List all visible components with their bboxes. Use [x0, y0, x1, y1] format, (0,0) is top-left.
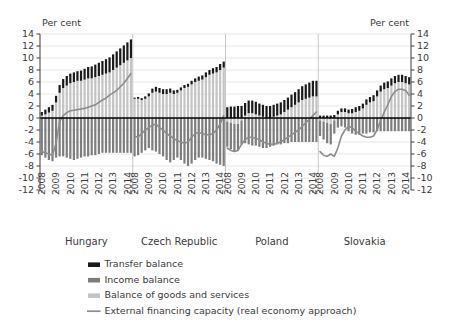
- bar-transfer-balance: [290, 95, 292, 108]
- bar-transfer-balance: [244, 103, 246, 116]
- bar-income-balance: [83, 118, 85, 156]
- bar-income-balance: [240, 120, 242, 144]
- bar-goods-services: [294, 105, 296, 118]
- bar-income-balance: [273, 118, 275, 146]
- bar-transfer-balance: [144, 96, 146, 98]
- bar-transfer-balance: [248, 101, 250, 114]
- bar-transfer-balance: [41, 112, 43, 116]
- x-tick-label-year: 2008: [130, 172, 140, 195]
- y-tick-label-right: -12: [417, 184, 433, 195]
- bar-transfer-balance: [230, 107, 232, 118]
- bar-transfer-balance: [158, 88, 160, 93]
- bar-transfer-balance: [355, 107, 357, 112]
- x-tick-label-year: 2014: [401, 172, 411, 195]
- bar-income-balance: [133, 118, 135, 156]
- bar-income-balance: [101, 118, 103, 153]
- bar-goods-services: [183, 88, 185, 118]
- bar-goods-services: [233, 118, 235, 124]
- bar-income-balance: [333, 120, 335, 133]
- bar-goods-services: [362, 108, 364, 118]
- bar-income-balance: [294, 118, 296, 142]
- bar-goods-services: [205, 77, 207, 118]
- bar-income-balance: [73, 118, 75, 160]
- bar-income-balance: [340, 118, 342, 126]
- bar-income-balance: [105, 118, 107, 153]
- y-tick-label-left: -2: [25, 124, 34, 135]
- bar-income-balance: [191, 118, 193, 164]
- bar-transfer-balance: [101, 61, 103, 75]
- bar-transfer-balance: [405, 76, 407, 83]
- bar-transfer-balance: [166, 89, 168, 94]
- y-tick-label-right: -2: [417, 124, 426, 135]
- bar-income-balance: [108, 118, 110, 153]
- bar-income-balance: [69, 118, 71, 159]
- bar-income-balance: [166, 118, 168, 160]
- bar-transfer-balance: [151, 89, 153, 93]
- bar-goods-services: [126, 60, 128, 118]
- bar-transfer-balance: [148, 93, 150, 96]
- bar-transfer-balance: [219, 64, 221, 70]
- bar-income-balance: [315, 118, 317, 142]
- chart-background: [0, 0, 452, 329]
- bar-goods-services: [394, 83, 396, 118]
- bar-transfer-balance: [369, 97, 371, 102]
- bar-transfer-balance: [340, 108, 342, 112]
- bar-transfer-balance: [362, 104, 364, 109]
- bar-transfer-balance: [376, 90, 378, 96]
- bar-goods-services: [376, 96, 378, 118]
- bar-goods-services: [305, 99, 307, 118]
- bar-income-balance: [330, 124, 332, 144]
- bar-income-balance: [397, 118, 399, 131]
- bar-income-balance: [76, 118, 78, 159]
- bar-goods-services: [137, 99, 139, 118]
- bar-income-balance: [280, 118, 282, 144]
- bar-transfer-balance: [59, 85, 61, 93]
- bar-transfer-balance: [44, 110, 46, 115]
- bar-transfer-balance: [301, 86, 303, 100]
- bar-transfer-balance: [137, 97, 139, 99]
- bar-income-balance: [258, 118, 260, 147]
- bar-income-balance: [112, 118, 114, 153]
- bar-transfer-balance: [51, 105, 53, 111]
- current-account-balance-chart: 1414121210108866442200-2-2-4-4-6-6-8-8-1…: [0, 0, 452, 329]
- bar-goods-services: [201, 80, 203, 118]
- x-tick-label-year: 2009: [51, 172, 61, 195]
- bar-transfer-balance: [87, 67, 89, 78]
- bar-income-balance: [337, 118, 339, 128]
- bar-transfer-balance: [237, 106, 239, 118]
- panel-title: Hungary: [65, 236, 108, 247]
- bar-income-balance: [351, 118, 353, 134]
- bar-income-balance: [194, 118, 196, 160]
- bar-income-balance: [262, 118, 264, 148]
- bar-transfer-balance: [251, 101, 253, 114]
- x-tick-label-year: 2010: [66, 172, 76, 195]
- bar-goods-services: [223, 68, 225, 118]
- bar-transfer-balance: [194, 78, 196, 82]
- bar-transfer-balance: [283, 100, 285, 112]
- bar-income-balance: [98, 118, 100, 154]
- bar-goods-services: [166, 94, 168, 118]
- x-tick-label-year: 2013: [108, 172, 118, 195]
- bar-goods-services: [212, 74, 214, 118]
- bar-income-balance: [87, 118, 89, 156]
- x-tick-label-year: 2011: [265, 172, 275, 195]
- bar-goods-services: [187, 87, 189, 118]
- x-tick-label-year: 2010: [158, 172, 168, 195]
- bar-income-balance: [276, 118, 278, 144]
- bar-goods-services: [301, 100, 303, 118]
- y-tick-label-right: 8: [417, 64, 423, 75]
- x-tick-label-year: 2013: [387, 172, 397, 195]
- bar-income-balance: [362, 118, 364, 134]
- bar-goods-services: [169, 93, 171, 118]
- x-tick-label-year: 2012: [372, 172, 382, 195]
- bar-goods-services: [298, 102, 300, 118]
- x-tick-label-year: 2010: [344, 172, 354, 195]
- y-tick-label-left: 0: [28, 112, 34, 123]
- bar-transfer-balance: [180, 87, 182, 90]
- legend-swatch: [88, 293, 100, 298]
- bar-transfer-balance: [116, 51, 118, 67]
- bar-transfer-balance: [351, 109, 353, 113]
- y-axis-unit-label-right: Per cent: [370, 17, 409, 28]
- bar-income-balance: [80, 118, 82, 158]
- bar-income-balance: [312, 118, 314, 142]
